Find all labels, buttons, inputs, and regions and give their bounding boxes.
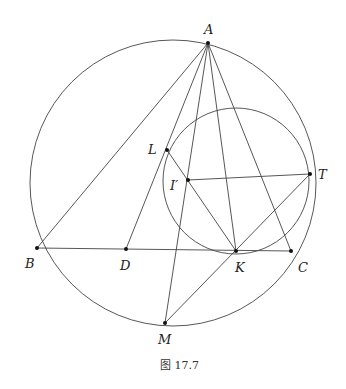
label-A: A [203,22,213,37]
point-D [124,247,128,251]
geometry-figure: A B C D K M L I′ T 图 17.7 [0,0,346,389]
point-T [308,172,312,176]
label-L: L [147,142,157,157]
point-K [234,249,238,253]
segment-BC [37,248,291,251]
label-Iprime: I′ [169,178,178,193]
point-Iprime [186,178,190,182]
segment-IT [188,174,310,180]
label-K: K [234,260,246,275]
label-T: T [318,167,328,182]
label-C: C [298,260,308,275]
point-L [165,148,169,152]
mixtilinear-circle [163,108,309,254]
segment-AB [37,43,208,248]
segment-AC [208,43,291,251]
point-M [163,321,167,325]
segment-LK [167,150,236,251]
point-A [206,41,210,45]
segment-AD [126,43,208,249]
figure-canvas: A B C D K M L I′ T 图 17.7 [0,0,346,389]
figure-caption: 图 17.7 [160,359,199,372]
point-C [289,249,293,253]
point-B [35,246,39,250]
segment-AK [208,43,236,251]
label-D: D [119,258,131,273]
label-M: M [157,332,172,347]
label-B: B [24,256,35,271]
segment-MT [165,174,310,323]
